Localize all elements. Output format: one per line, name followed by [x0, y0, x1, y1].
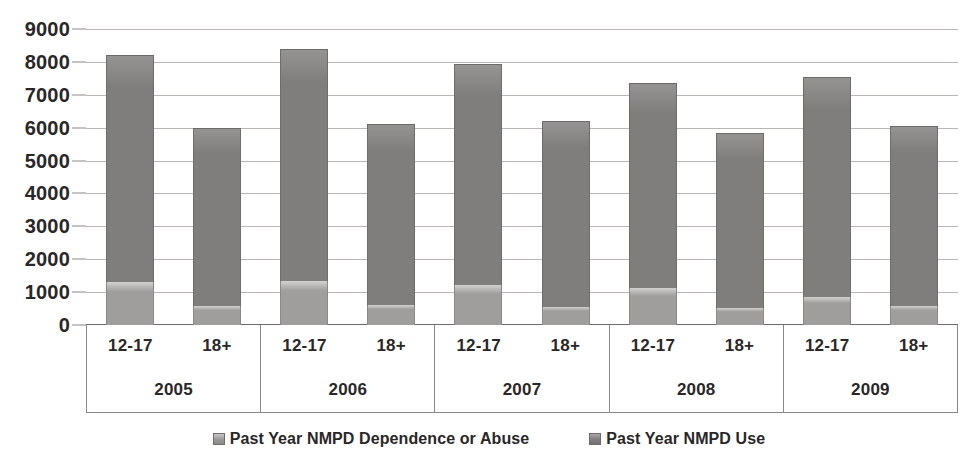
legend-item-dependence-or-abuse: Past Year NMPD Dependence or Abuse: [213, 430, 530, 448]
x-axis-group-2006: 12-1718+2006: [260, 325, 434, 412]
x-axis-subgroup-row: 12-1718+: [610, 325, 783, 367]
y-axis-tick-label: 4000: [0, 182, 70, 205]
bar-2007-12-17: [454, 64, 502, 325]
bar-segment-use: [280, 49, 328, 282]
bar-segment-use: [803, 77, 851, 297]
bar-2005-18plus: [193, 128, 241, 325]
bar-segment-use: [542, 121, 590, 306]
y-axis-tick-mark: [72, 325, 86, 326]
bar-segment-dependence-or-abuse: [193, 306, 241, 325]
y-axis-tick-mark: [72, 292, 86, 293]
x-axis-group-2005: 12-1718+2005: [87, 325, 260, 412]
bar-segment-dependence-or-abuse: [629, 288, 677, 325]
legend-item-use: Past Year NMPD Use: [589, 430, 765, 448]
x-axis-group-label: 2006: [261, 367, 434, 412]
x-axis-subgroup-label: 12-17: [87, 325, 174, 367]
x-axis-subgroup-row: 12-1718+: [87, 325, 260, 367]
y-axis-tick-label: 3000: [0, 215, 70, 238]
bar-segment-dependence-or-abuse: [280, 281, 328, 325]
x-axis-group-2008: 12-1718+2008: [609, 325, 783, 412]
y-axis-tick-mark: [72, 193, 86, 194]
y-axis-tick-label: 6000: [0, 116, 70, 139]
x-axis-group-label: 2008: [610, 367, 783, 412]
bar-2007-18plus: [542, 121, 590, 325]
y-axis-tick-mark: [72, 259, 86, 260]
bar-2006-18plus: [367, 124, 415, 325]
y-axis-tick-mark: [72, 29, 86, 30]
x-axis-subgroup-label: 18+: [174, 325, 261, 367]
bar-segment-dependence-or-abuse: [106, 282, 154, 325]
x-axis-subgroup-label: 18+: [522, 325, 609, 367]
bar-segment-use: [193, 128, 241, 306]
legend-swatch-icon: [589, 433, 601, 445]
chart-legend: Past Year NMPD Dependence or Abuse Past …: [0, 424, 978, 454]
x-axis-subgroup-label: 12-17: [784, 325, 871, 367]
x-axis-subgroup-label: 18+: [870, 325, 957, 367]
bar-segment-use: [629, 83, 677, 288]
y-axis-tick-label: 2000: [0, 248, 70, 271]
x-axis-subgroup-label: 18+: [696, 325, 783, 367]
x-axis-subgroup-row: 12-1718+: [435, 325, 608, 367]
legend-label: Past Year NMPD Use: [606, 430, 765, 448]
x-axis-subgroup-row: 12-1718+: [261, 325, 434, 367]
y-axis-tick-mark: [72, 61, 86, 62]
bar-2006-12-17: [280, 49, 328, 325]
y-axis-tick-label: 7000: [0, 83, 70, 106]
y-axis-tick-mark: [72, 127, 86, 128]
bar-segment-use: [454, 64, 502, 286]
bar-segment-dependence-or-abuse: [890, 306, 938, 325]
y-axis-tick-mark: [72, 94, 86, 95]
gridline: [86, 29, 958, 30]
y-axis-tick-label: 8000: [0, 50, 70, 73]
x-axis-subgroup-row: 12-1718+: [784, 325, 957, 367]
y-axis: 9000800070006000500040003000200010000: [0, 0, 70, 466]
x-axis-group-label: 2009: [784, 367, 957, 412]
y-axis-tick-label: 5000: [0, 149, 70, 172]
bar-segment-dependence-or-abuse: [716, 308, 764, 325]
legend-label: Past Year NMPD Dependence or Abuse: [230, 430, 530, 448]
bar-segment-use: [890, 126, 938, 306]
x-axis-group-2009: 12-1718+2009: [783, 325, 957, 412]
bar-2005-12-17: [106, 55, 154, 325]
bar-segment-dependence-or-abuse: [803, 297, 851, 325]
y-axis-tick-mark: [72, 226, 86, 227]
x-axis-category-table: 12-1718+200512-1718+200612-1718+200712-1…: [86, 325, 958, 413]
x-axis-group-label: 2007: [435, 367, 608, 412]
bar-segment-dependence-or-abuse: [367, 305, 415, 325]
bar-segment-use: [367, 124, 415, 306]
x-axis-subgroup-label: 12-17: [261, 325, 348, 367]
bar-2008-18plus: [716, 133, 764, 325]
legend-swatch-icon: [213, 433, 225, 445]
bar-segment-use: [716, 133, 764, 308]
y-axis-tick-label: 0: [0, 314, 70, 337]
bar-2009-18plus: [890, 126, 938, 325]
gridline: [86, 62, 958, 63]
bar-segment-use: [106, 55, 154, 282]
bar-segment-dependence-or-abuse: [454, 285, 502, 325]
x-axis-group-2007: 12-1718+2007: [434, 325, 608, 412]
stacked-bar-chart: 9000800070006000500040003000200010000 12…: [0, 0, 978, 466]
y-axis-tick-mark: [72, 160, 86, 161]
bar-2008-12-17: [629, 83, 677, 325]
x-axis-subgroup-label: 12-17: [610, 325, 697, 367]
x-axis-subgroup-label: 12-17: [435, 325, 522, 367]
y-axis-tick-label: 9000: [0, 18, 70, 41]
bar-2009-12-17: [803, 77, 851, 325]
x-axis-group-label: 2005: [87, 367, 260, 412]
y-axis-tick-label: 1000: [0, 281, 70, 304]
bar-segment-dependence-or-abuse: [542, 307, 590, 325]
x-axis-subgroup-label: 18+: [348, 325, 435, 367]
plot-area: [86, 29, 958, 325]
